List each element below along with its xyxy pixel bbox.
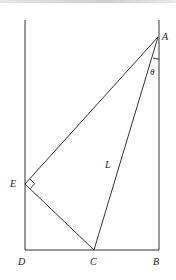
segment-AC — [94, 37, 158, 250]
label-B: B — [153, 256, 159, 267]
segment-AE — [25, 37, 158, 184]
geometry-diagram: A θ L E D C B — [0, 0, 176, 280]
label-D: D — [17, 256, 26, 267]
segment-EC — [25, 184, 94, 250]
label-C: C — [90, 256, 97, 267]
label-E: E — [9, 178, 16, 189]
label-theta: θ — [150, 67, 155, 77]
label-L: L — [104, 159, 111, 170]
theta-arc — [153, 58, 159, 59]
label-A: A — [161, 31, 169, 42]
right-angle-marker-E — [30, 179, 35, 189]
